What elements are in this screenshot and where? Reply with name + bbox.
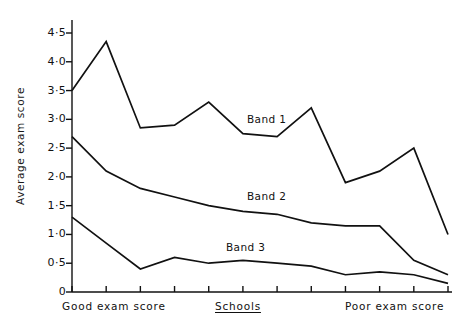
x-axis-ticks [72, 286, 448, 292]
x-axis-caption-good: Good exam score [62, 300, 166, 312]
series-line-band-1 [72, 42, 448, 235]
series-label-band-1: Band 1 [245, 113, 288, 125]
series-label-band-3: Band 3 [224, 241, 267, 253]
y-axis-tick-label: 2·5 [28, 142, 66, 153]
y-axis-tick-label: 1·0 [28, 228, 66, 239]
x-axis-caption-schools: Schools [215, 300, 261, 312]
y-axis-tick-label: 2·0 [28, 171, 66, 182]
series-line-band-2 [72, 137, 448, 275]
y-axis-ticks [66, 33, 72, 292]
series-label-band-2: Band 2 [245, 190, 288, 202]
y-axis-tick-label: 4·0 [28, 56, 66, 67]
x-axis-caption-poor: Poor exam score [345, 300, 444, 312]
y-axis-tick-labels: 00·51·01·52·02·53·03·54·04·5 [24, 0, 66, 329]
y-axis-tick-label: 1·5 [28, 200, 66, 211]
y-axis-tick-label: 0 [28, 286, 66, 297]
y-axis-tick-label: 3·5 [28, 85, 66, 96]
y-axis-tick-label: 4·5 [28, 27, 66, 38]
y-axis-title: Average exam score [14, 56, 26, 236]
chart-plot-area [0, 0, 457, 329]
chart-figure: 00·51·01·52·02·53·03·54·04·5 Average exa… [0, 0, 457, 329]
y-axis-tick-label: 3·0 [28, 113, 66, 124]
y-axis-tick-label: 0·5 [28, 257, 66, 268]
